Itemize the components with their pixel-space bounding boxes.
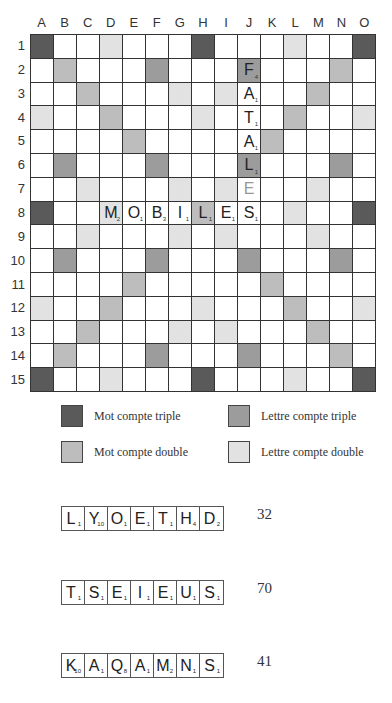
board-cell-i11[interactable] <box>215 273 237 296</box>
board-cell-d4[interactable] <box>100 106 122 129</box>
board-cell-o2[interactable] <box>353 59 375 82</box>
rack-tile[interactable]: E1 <box>108 581 131 604</box>
board-cell-i7[interactable] <box>215 178 237 201</box>
board-cell-d6[interactable] <box>100 154 122 177</box>
board-cell-i12[interactable] <box>215 297 237 320</box>
board-cell-c7[interactable] <box>77 178 99 201</box>
board-cell-l1[interactable] <box>284 35 306 58</box>
board-cell-e14[interactable] <box>123 344 145 367</box>
rack-tile[interactable]: Q8 <box>108 654 131 677</box>
rack-tile[interactable]: U1 <box>177 581 200 604</box>
board-cell-a4[interactable] <box>31 106 53 129</box>
board-cell-j14[interactable] <box>238 344 260 367</box>
board-cell-h6[interactable] <box>192 154 214 177</box>
board-cell-f11[interactable] <box>146 273 168 296</box>
board-cell-k13[interactable] <box>261 321 283 344</box>
board-cell-b4[interactable] <box>54 106 76 129</box>
rack-tile[interactable]: E1 <box>131 507 154 530</box>
board-cell-i13[interactable] <box>215 321 237 344</box>
board-cell-c13[interactable] <box>77 321 99 344</box>
board-cell-b9[interactable] <box>54 225 76 248</box>
board-cell-b7[interactable] <box>54 178 76 201</box>
board-cell-d8[interactable]: M2 <box>100 202 122 225</box>
board-cell-e5[interactable] <box>123 130 145 153</box>
board-cell-g10[interactable] <box>169 249 191 272</box>
board-cell-j4[interactable]: T1 <box>238 106 260 129</box>
board-cell-n7[interactable] <box>330 178 352 201</box>
board-cell-h15[interactable] <box>192 368 214 391</box>
rack-tile[interactable]: O1 <box>108 507 131 530</box>
board-cell-c9[interactable] <box>77 225 99 248</box>
board-cell-m8[interactable] <box>307 202 329 225</box>
board-cell-m11[interactable] <box>307 273 329 296</box>
board-cell-e11[interactable] <box>123 273 145 296</box>
rack-tile[interactable]: A1 <box>85 654 108 677</box>
board-cell-l12[interactable] <box>284 297 306 320</box>
board-cell-k4[interactable] <box>261 106 283 129</box>
board-cell-l11[interactable] <box>284 273 306 296</box>
rack-tile[interactable]: K10 <box>62 654 85 677</box>
board-cell-j5[interactable]: A1 <box>238 130 260 153</box>
board-cell-b10[interactable] <box>54 249 76 272</box>
board-cell-h12[interactable] <box>192 297 214 320</box>
board-cell-d2[interactable] <box>100 59 122 82</box>
board-cell-f15[interactable] <box>146 368 168 391</box>
board-cell-a11[interactable] <box>31 273 53 296</box>
board-cell-j7[interactable]: E <box>238 178 260 201</box>
board-cell-j10[interactable] <box>238 249 260 272</box>
board-cell-e15[interactable] <box>123 368 145 391</box>
rack-tile[interactable]: H4 <box>177 507 200 530</box>
board-cell-m2[interactable] <box>307 59 329 82</box>
board-cell-b2[interactable] <box>54 59 76 82</box>
board-cell-i5[interactable] <box>215 130 237 153</box>
board-cell-e2[interactable] <box>123 59 145 82</box>
board-cell-e1[interactable] <box>123 35 145 58</box>
board-cell-d15[interactable] <box>100 368 122 391</box>
board-cell-d9[interactable] <box>100 225 122 248</box>
board-cell-i14[interactable] <box>215 344 237 367</box>
board-cell-f8[interactable]: B3 <box>146 202 168 225</box>
board-cell-i4[interactable] <box>215 106 237 129</box>
board-cell-l9[interactable] <box>284 225 306 248</box>
board-cell-b6[interactable] <box>54 154 76 177</box>
board-cell-o13[interactable] <box>353 321 375 344</box>
board-cell-j12[interactable] <box>238 297 260 320</box>
board-cell-n12[interactable] <box>330 297 352 320</box>
board-cell-f5[interactable] <box>146 130 168 153</box>
board-cell-a14[interactable] <box>31 344 53 367</box>
board-cell-d11[interactable] <box>100 273 122 296</box>
board-cell-e7[interactable] <box>123 178 145 201</box>
board-cell-f10[interactable] <box>146 249 168 272</box>
board-cell-o10[interactable] <box>353 249 375 272</box>
board-cell-h11[interactable] <box>192 273 214 296</box>
board-cell-e9[interactable] <box>123 225 145 248</box>
board-cell-a9[interactable] <box>31 225 53 248</box>
board-cell-n13[interactable] <box>330 321 352 344</box>
rack-tile[interactable]: T1 <box>154 507 177 530</box>
board-cell-d1[interactable] <box>100 35 122 58</box>
board-cell-f4[interactable] <box>146 106 168 129</box>
board-cell-n10[interactable] <box>330 249 352 272</box>
board-cell-a7[interactable] <box>31 178 53 201</box>
board-cell-c2[interactable] <box>77 59 99 82</box>
board-cell-m10[interactable] <box>307 249 329 272</box>
board-cell-a13[interactable] <box>31 321 53 344</box>
board-cell-e12[interactable] <box>123 297 145 320</box>
rack-tile[interactable]: N1 <box>177 654 200 677</box>
board-cell-n14[interactable] <box>330 344 352 367</box>
board-cell-c15[interactable] <box>77 368 99 391</box>
board-cell-o3[interactable] <box>353 83 375 106</box>
rack-tile[interactable]: S1 <box>200 581 223 604</box>
board-cell-b15[interactable] <box>54 368 76 391</box>
board-cell-f3[interactable] <box>146 83 168 106</box>
board-cell-k7[interactable] <box>261 178 283 201</box>
board-cell-b11[interactable] <box>54 273 76 296</box>
board-cell-o12[interactable] <box>353 297 375 320</box>
board-cell-k3[interactable] <box>261 83 283 106</box>
board-cell-l14[interactable] <box>284 344 306 367</box>
board-cell-h9[interactable] <box>192 225 214 248</box>
board-cell-b8[interactable] <box>54 202 76 225</box>
board-cell-g3[interactable] <box>169 83 191 106</box>
board-cell-l15[interactable] <box>284 368 306 391</box>
board-cell-b12[interactable] <box>54 297 76 320</box>
